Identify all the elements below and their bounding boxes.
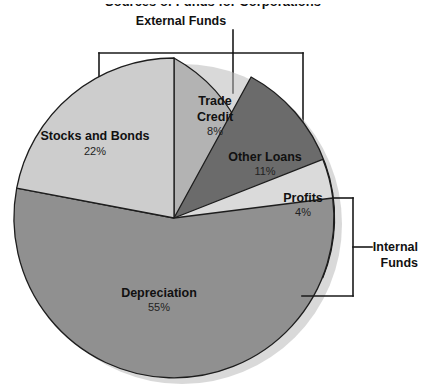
value-profits: 4% [295, 206, 311, 218]
pie-chart-figure: Sources of Funds for Corporations Extern… [0, 0, 426, 389]
pie-slices: Trade Credit 8% Other Loans 11% Profits … [14, 58, 335, 378]
internal-funds-label-line2: Funds [381, 256, 419, 270]
label-depreciation: Depreciation [121, 286, 197, 300]
label-stocks-and-bonds: Stocks and Bonds [40, 129, 149, 143]
internal-funds-label-line1: Internal [373, 240, 418, 254]
label-profits: Profits [283, 191, 323, 205]
value-trade-credit: 8% [207, 125, 223, 137]
value-depreciation: 55% [148, 301, 170, 313]
value-other-loans: 11% [254, 165, 275, 177]
title-crop-mask [0, 0, 426, 4]
label-trade-credit-line2: Credit [197, 110, 234, 124]
chart-canvas: Sources of Funds for Corporations Extern… [0, 0, 426, 389]
label-trade-credit-line1: Trade [198, 94, 231, 108]
value-stocks-and-bonds: 22% [84, 145, 106, 157]
label-other-loans: Other Loans [228, 150, 302, 164]
external-funds-label: External Funds [136, 14, 226, 28]
